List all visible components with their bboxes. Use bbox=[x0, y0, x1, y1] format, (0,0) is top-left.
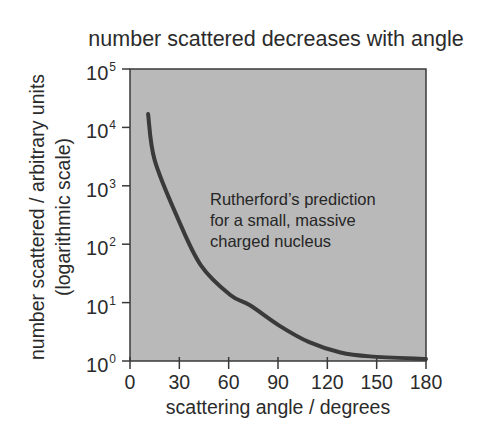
annotation-line-1: Rutherford’s prediction bbox=[210, 189, 376, 210]
y-tick-label: 104 bbox=[56, 115, 116, 141]
x-tick-label: 30 bbox=[154, 371, 204, 394]
curve-annotation: Rutherford’s prediction for a small, mas… bbox=[210, 189, 376, 252]
annotation-line-2: for a small, massive bbox=[210, 210, 376, 231]
y-tick-label: 102 bbox=[56, 232, 116, 258]
x-tick-label: 150 bbox=[352, 371, 402, 394]
y-axis-label-sub: (logarithmic scale) bbox=[50, 67, 76, 367]
y-tick-label: 101 bbox=[56, 291, 116, 317]
y-tick-label: 105 bbox=[56, 57, 116, 83]
x-axis-label: scattering angle / degrees bbox=[130, 396, 426, 419]
x-tick-label: 180 bbox=[401, 371, 451, 394]
x-tick-label: 60 bbox=[204, 371, 254, 394]
y-axis-label: number scattered / arbitrary units (loga… bbox=[24, 67, 76, 367]
x-tick-label: 90 bbox=[253, 371, 303, 394]
y-tick-label: 103 bbox=[56, 174, 116, 200]
annotation-line-3: charged nucleus bbox=[210, 231, 376, 252]
x-tick-label: 120 bbox=[302, 371, 352, 394]
y-axis-label-main: number scattered / arbitrary units bbox=[24, 67, 50, 367]
chart-title: number scattered decreases with angle bbox=[0, 27, 483, 52]
x-tick-label: 0 bbox=[105, 371, 155, 394]
